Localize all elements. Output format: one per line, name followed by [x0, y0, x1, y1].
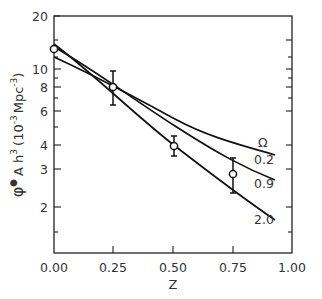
svg-text:φ●A h3(10-3Mpc-3): φ●A h3(10-3Mpc-3)	[8, 73, 27, 198]
chart: 20 10 8 6 4 3 2 0.00 0.25 0.50 0.75 1.00…	[0, 0, 322, 299]
x-tick-0: 0.00	[40, 260, 68, 275]
x-tick-075: 0.75	[219, 260, 247, 275]
y-tick-20: 20	[32, 9, 48, 24]
y-tick-6: 6	[40, 104, 48, 119]
data-point-z050	[170, 142, 177, 149]
x-tick-100: 1.00	[278, 260, 306, 275]
y-ticks-right	[286, 40, 292, 232]
y-tick-10: 10	[32, 62, 48, 77]
y-tick-8: 8	[40, 80, 48, 95]
x-tick-025: 0.25	[99, 260, 127, 275]
x-tick-050: 0.50	[159, 260, 187, 275]
legend-title-omega: Ω	[258, 135, 268, 150]
curve-omega-2.0	[54, 44, 275, 220]
data-point-z075	[229, 170, 236, 177]
x-axis-label: Z	[169, 277, 178, 292]
curve-label-0.9: 0.9	[254, 176, 274, 191]
curve-label-2.0: 2.0	[254, 212, 274, 227]
data-point-z0	[50, 45, 57, 52]
curve-label-0.2: 0.2	[254, 152, 274, 167]
y-tick-3: 3	[40, 162, 48, 177]
y-tick-2: 2	[40, 200, 48, 215]
y-tick-4: 4	[40, 138, 48, 153]
y-axis-ah: A h	[11, 155, 26, 176]
y-axis-label: φ●A h3(10-3Mpc-3)	[8, 73, 27, 198]
x-ticks	[113, 246, 233, 253]
y-axis-phi: φ	[8, 187, 27, 198]
y-axis-units: (10	[11, 124, 26, 146]
data-point-z025	[109, 83, 116, 90]
y-axis-mpc: Mpc	[11, 87, 26, 114]
